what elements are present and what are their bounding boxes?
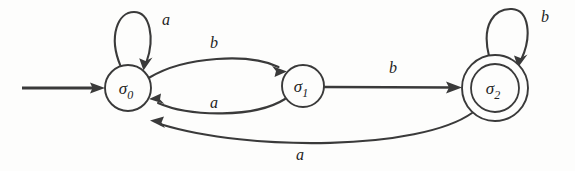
transition-sigma2-self-b-path [487,9,528,59]
transition-sigma0-sigma1-b-path [150,58,279,77]
transition-sigma0-sigma1-b: b [150,34,288,78]
state-sigma-0-subscript: 0 [127,88,133,102]
start-arrow [22,83,105,94]
state-sigma-2-subscript: 2 [494,88,500,102]
transition-sigma0-self-a-path [115,12,151,66]
transition-sigma1-sigma0-a-path [158,99,285,113]
state-node-sigma-1[interactable]: σ1 [282,65,324,107]
state-node-sigma-2[interactable]: σ2 [462,55,528,121]
transition-label-sigma2-sigma0-a: a [296,146,304,163]
transition-label-sigma1-sigma0-a: a [210,94,218,111]
transition-sigma2-sigma0-a-arrowhead [150,117,165,129]
transition-sigma1-sigma0-a: a [149,94,285,114]
automaton-diagram: a b a b b a [0,0,575,171]
transition-label-sigma0-self-a: a [162,11,170,28]
automaton-canvas: a b a b b a [0,0,575,171]
transition-sigma2-sigma0-a-path [160,113,472,143]
transition-sigma0-self-a: a [115,11,170,71]
transition-sigma1-sigma2-b: b [324,59,462,94]
state-sigma-1-subscript: 1 [302,86,308,100]
transition-label-sigma1-sigma2-b: b [389,59,397,76]
transition-sigma1-sigma2-b-path [324,87,452,88]
transition-label-sigma2-self-b: b [541,8,549,25]
state-node-sigma-0[interactable]: σ0 [105,65,151,111]
transition-sigma1-sigma0-a-arrowhead [149,94,165,105]
transition-sigma2-sigma0-a: a [150,113,472,163]
transition-label-sigma0-sigma1-b: b [210,34,218,51]
